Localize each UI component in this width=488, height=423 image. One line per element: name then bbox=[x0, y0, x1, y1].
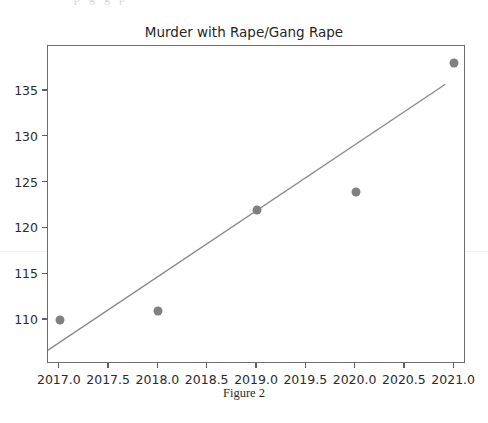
x-axis-tick-label: 2021.0 bbox=[431, 372, 475, 387]
x-axis-tick bbox=[453, 363, 454, 368]
y-axis-tick bbox=[42, 89, 47, 90]
x-axis-tick-label: 2017.0 bbox=[37, 372, 81, 387]
x-axis-tick-label: 2018.0 bbox=[136, 372, 180, 387]
scan-top-text-fragment: p g g p bbox=[74, 0, 128, 6]
y-axis-tick bbox=[42, 318, 47, 319]
data-point-marker bbox=[450, 59, 459, 68]
x-axis-tick-label: 2019.5 bbox=[283, 372, 327, 387]
x-axis-tick-label: 2018.5 bbox=[185, 372, 229, 387]
y-axis-tick bbox=[42, 135, 47, 136]
plot-inner bbox=[48, 46, 464, 362]
y-axis-tick-label: 110 bbox=[14, 312, 38, 327]
data-point-marker bbox=[55, 316, 64, 325]
figure-page: p g g p Murder with Rape/Gang Rape 11011… bbox=[0, 0, 488, 423]
y-axis-tick-label: 130 bbox=[14, 128, 38, 143]
y-axis-tick-label: 125 bbox=[14, 174, 38, 189]
x-axis-tick-label: 2017.5 bbox=[86, 372, 130, 387]
figure-caption: Figure 2 bbox=[0, 386, 488, 401]
x-axis-tick bbox=[206, 363, 207, 368]
x-axis-tick bbox=[305, 363, 306, 368]
data-point-marker bbox=[154, 306, 163, 315]
x-axis-tick bbox=[354, 363, 355, 368]
x-axis-tick bbox=[58, 363, 59, 368]
y-axis-tick-label: 135 bbox=[14, 82, 38, 97]
data-point-marker bbox=[351, 187, 360, 196]
x-axis-tick bbox=[403, 363, 404, 368]
y-axis-tick-label: 120 bbox=[14, 220, 38, 235]
y-axis-tick-label: 115 bbox=[14, 266, 38, 281]
x-axis-tick-label: 2020.5 bbox=[382, 372, 426, 387]
x-axis-tick bbox=[107, 363, 108, 368]
chart-title: Murder with Rape/Gang Rape bbox=[0, 24, 488, 40]
data-point-marker bbox=[253, 206, 262, 215]
trend-line bbox=[48, 46, 464, 362]
x-axis-tick bbox=[157, 363, 158, 368]
x-axis-tick-label: 2020.0 bbox=[333, 372, 377, 387]
x-axis-tick bbox=[255, 363, 256, 368]
x-axis-tick-label: 2019.0 bbox=[234, 372, 278, 387]
plot-area bbox=[47, 45, 465, 363]
y-axis-tick bbox=[42, 227, 47, 228]
y-axis-tick bbox=[42, 181, 47, 182]
y-axis-tick bbox=[42, 273, 47, 274]
